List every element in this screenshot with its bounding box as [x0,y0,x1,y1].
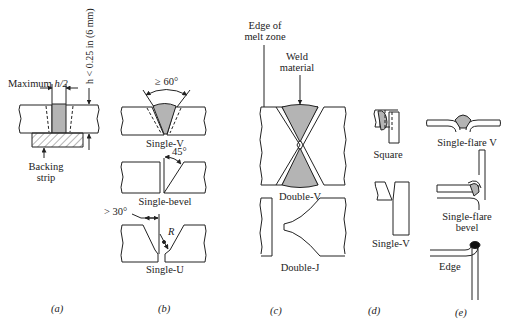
thickness-label: h < 0.25 in (6 mm) [85,8,96,84]
weld-material-line1: Weld [272,51,322,62]
single-flare-bevel-line1: Single-flare [427,211,507,222]
panel-e-single-flare-v-joint [427,115,501,132]
caption-b: (b) [158,303,170,314]
square-caption: Square [368,149,408,160]
single-v-d-caption: Single-V [368,238,414,249]
single-bevel-caption: Single-bevel [135,196,195,207]
double-j-caption: Double-J [272,262,328,273]
panel-d-square-joint [374,110,399,143]
caption-a: (a) [51,303,63,314]
weld-material-line2: material [272,62,322,73]
panel-c-double-j-joint [260,198,346,256]
edge-caption: Edge [439,261,461,272]
panel-a-backing-strip-joint [19,84,99,158]
backing-strip-label: Backing strip [24,161,68,183]
caption-d: (d) [368,305,380,316]
max-h2-label: Maximum h/2 [8,78,68,89]
caption-e: (e) [455,307,467,318]
panel-e-single-flare-bevel-joint [437,150,485,210]
single-u-caption: Single-U [140,264,190,275]
edge-melt-zone-line2: melt zone [240,31,290,42]
max-h2-prefix: Maximum [8,78,54,89]
panel-d-single-v-joint [375,182,409,235]
panel-b-single-bevel-joint [121,157,206,193]
edge-melt-zone-line1: Edge of [240,20,290,31]
edge-melt-zone-label: Edge of melt zone [240,20,290,42]
single-flare-bevel-line2: bevel [427,222,507,233]
panel-b-single-v-joint [121,90,206,136]
single-flare-bevel-caption: Single-flare bevel [427,211,507,233]
weld-material-label: Weld material [272,51,322,73]
radius-r-label: R [168,226,174,237]
backing-strip-line1: Backing [24,161,68,172]
angle-30-label: > 30° [104,206,127,217]
single-flare-v-caption: Single-flare V [427,137,507,148]
double-v-caption: Double-V [272,191,328,202]
backing-strip-line2: strip [24,172,68,183]
angle-60-label: ≥ 60° [155,76,178,87]
panel-b-single-u-joint [121,214,206,262]
caption-c: (c) [270,305,282,316]
max-h2-var: h/2 [54,78,67,89]
weld-joints-diagram [0,0,511,328]
angle-45-label: 45° [172,146,187,157]
